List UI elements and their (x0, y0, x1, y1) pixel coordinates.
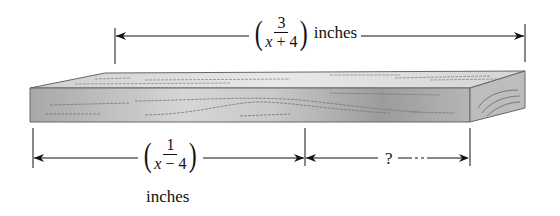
fraction-total: 3 x + 4 (265, 15, 297, 50)
paren-close: ) (189, 138, 197, 172)
fraction-numerator: 1 (163, 137, 177, 155)
paren-open: ( (144, 138, 152, 172)
board-front-face (30, 88, 470, 122)
bottom-dimension (33, 128, 470, 168)
fraction-left: 1 x − 4 (154, 137, 186, 172)
left-segment-unit: inches (146, 188, 189, 205)
total-length-label: ( 3 x + 4 ) inches (249, 15, 361, 50)
fraction-numerator: 3 (274, 15, 288, 33)
fraction-denominator: x − 4 (154, 155, 186, 172)
unknown-length-label: ? (382, 150, 396, 167)
left-segment-label: ( 1 x − 4 ) (138, 137, 203, 172)
paren-open: ( (255, 16, 263, 50)
paren-close: ) (300, 16, 308, 50)
fraction-denominator: x + 4 (265, 33, 297, 50)
unit-label: inches (314, 24, 357, 41)
wooden-board (30, 71, 525, 122)
